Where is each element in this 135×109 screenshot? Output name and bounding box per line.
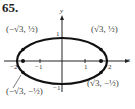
focus-right [99, 59, 103, 63]
y-axis-label: y [60, 7, 63, 15]
tick-neg1: −1 [35, 63, 42, 71]
ytick-neg1: −1 [53, 84, 60, 92]
point-bottom-right [99, 71, 103, 75]
tick-1: 1 [84, 63, 88, 71]
tick-neg2: −2 [10, 63, 17, 71]
point-top-left [21, 48, 25, 52]
point-bottom-left [21, 71, 25, 75]
label-top-left: (−√3, ½) [6, 24, 38, 34]
focus-left [21, 59, 25, 63]
label-bottom-right: (√3, −½) [87, 78, 119, 88]
label-top-right: (√3, ½) [91, 24, 118, 34]
x-axis-label: x [127, 56, 130, 64]
point-top-right [99, 48, 103, 52]
ytick-1: 1 [56, 30, 60, 38]
label-bottom-left: (−√3, −½) [6, 86, 43, 96]
y-axis-arrow-icon [60, 15, 64, 20]
tick-2: 2 [108, 63, 112, 71]
